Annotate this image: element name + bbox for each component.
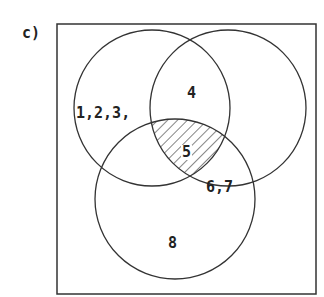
region-c-only: 8 bbox=[168, 236, 177, 251]
shaded-intersection bbox=[95, 119, 255, 279]
region-bc-only: 6,7 bbox=[206, 180, 233, 195]
venn-diagram bbox=[0, 0, 324, 297]
region-a-only: 1,2,3, bbox=[76, 106, 130, 121]
part-label: c) bbox=[22, 26, 40, 41]
region-ab-only: 4 bbox=[187, 86, 196, 101]
region-abc: 5 bbox=[181, 145, 192, 160]
